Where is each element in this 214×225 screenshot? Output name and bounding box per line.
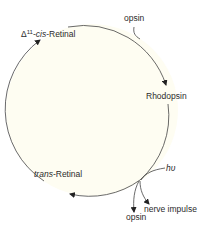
trans-retinal-label: trans-Retinal <box>34 170 82 179</box>
nerve-impulse-label: nerve impulse <box>144 205 197 214</box>
rhodopsin-label: Rhodopsin <box>146 92 187 101</box>
opsin-output-arrow <box>134 181 139 212</box>
cis-retinal-label: Δ11-cis-Retinal <box>21 29 75 39</box>
cycle-circle <box>6 24 178 196</box>
trans-text: trans <box>34 169 53 179</box>
opsin-output-label: opsin <box>126 213 146 222</box>
cis-text: cis <box>36 29 46 39</box>
opsin-input-label: opsin <box>124 14 144 23</box>
nerve-impulse-arrow <box>140 181 149 204</box>
retinal-text: -Retinal <box>53 169 82 179</box>
retinal-text: -Retinal <box>46 29 75 39</box>
light-hv-label: hυ <box>166 164 175 173</box>
